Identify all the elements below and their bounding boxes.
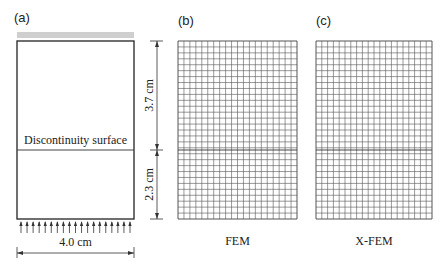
top-band bbox=[17, 32, 134, 38]
width-label: 4.0 cm bbox=[17, 235, 134, 250]
domain-box bbox=[17, 41, 134, 219]
upper-height-label: 3.7 cm bbox=[142, 71, 157, 121]
fem-mesh bbox=[178, 41, 297, 219]
xfem-caption: X-FEM bbox=[316, 234, 432, 249]
fem-caption: FEM bbox=[178, 234, 297, 249]
arrowhead-right bbox=[128, 251, 134, 255]
xfem-mesh bbox=[316, 41, 432, 219]
discontinuity-label: Discontinuity surface bbox=[17, 133, 134, 148]
arrowhead-left bbox=[17, 251, 23, 255]
load-arrows bbox=[19, 221, 131, 233]
lower-height-label: 2.3 cm bbox=[142, 160, 157, 210]
